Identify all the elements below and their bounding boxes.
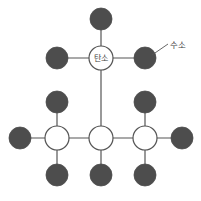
hydrogen-left-outer xyxy=(9,127,31,149)
hydrogen-left-upper xyxy=(46,91,68,113)
hydrogen-top-above-carbon xyxy=(90,8,112,30)
hydrogen-right-lower xyxy=(134,164,156,186)
hydrogen-right-upper xyxy=(134,91,156,113)
molecule-diagram-canvas: 탄소 수소 xyxy=(0,0,201,201)
hydrogen-right-outer xyxy=(171,127,193,149)
hydrogen-callout-label: 수소 xyxy=(170,40,186,50)
hydrogen-top-right-labeled xyxy=(134,47,156,69)
hydrogen-left-lower xyxy=(46,164,68,186)
carbon-bottom-right xyxy=(133,126,157,150)
callout-layer: 수소 xyxy=(152,40,186,56)
carbon-bottom-center xyxy=(89,126,113,150)
carbon-top-group: 탄소 xyxy=(89,46,113,70)
carbon-bottom-left-group xyxy=(45,126,69,150)
molecule-diagram-svg: 탄소 수소 xyxy=(0,0,201,201)
carbon-bottom-right-group xyxy=(133,126,157,150)
carbon-atom-label: 탄소 xyxy=(94,53,108,63)
carbon-bottom-center-group xyxy=(89,126,113,150)
bonds-layer xyxy=(20,19,182,175)
carbon-bottom-left xyxy=(45,126,69,150)
hydrogen-callout-leader-line xyxy=(152,44,168,55)
hydrogen-top-left xyxy=(46,47,68,69)
hydrogen-center-lower xyxy=(90,164,112,186)
